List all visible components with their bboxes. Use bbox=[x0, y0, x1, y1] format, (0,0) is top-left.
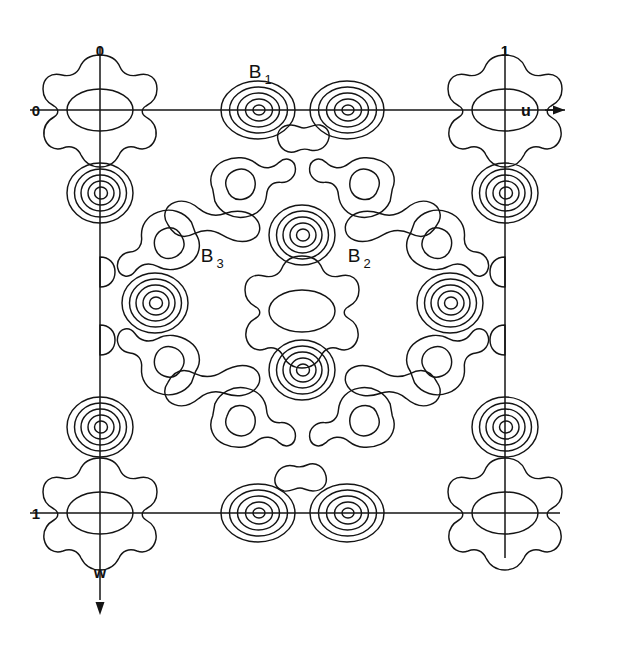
axis-ring-peaks-group bbox=[221, 81, 384, 542]
cross-peak-center bbox=[245, 256, 359, 368]
peak-label-b3-base: B bbox=[201, 245, 214, 266]
axis-labels-group: 0 1 0 1 u w bbox=[32, 42, 531, 581]
peak-label-b3-subscript: 3 bbox=[216, 256, 223, 271]
amoeba-blob-bottom-left bbox=[207, 383, 302, 457]
kidney-blobs-group bbox=[275, 125, 329, 491]
amoeba-blob-top-left bbox=[207, 148, 302, 222]
amoeba-blob-top-right bbox=[303, 148, 398, 222]
peak-label-b2: B 2 bbox=[348, 245, 371, 271]
ring-peak-mid-right bbox=[417, 273, 483, 333]
w-axis-arrowhead bbox=[96, 602, 105, 615]
w-axis-label: w bbox=[93, 564, 107, 581]
edge-nub-right-upper bbox=[490, 257, 505, 287]
bean-blob-bottom-left bbox=[162, 348, 263, 423]
u-axis-label: u bbox=[521, 102, 531, 119]
tick-label-w-origin: 0 bbox=[32, 102, 40, 119]
amoeba-blob-left-lower bbox=[104, 317, 205, 403]
amoeba-blob-right-lower bbox=[401, 317, 502, 403]
amoeba-blob-bottom-right bbox=[303, 383, 398, 457]
patterson-figure: 0 1 0 1 u w bbox=[0, 0, 634, 646]
peak-label-b1-subscript: 1 bbox=[264, 72, 271, 87]
ring-peak-mid-left bbox=[122, 273, 188, 333]
amoeba-blob-left-upper bbox=[104, 202, 205, 288]
bean-blob-bottom-right bbox=[343, 348, 444, 423]
peak-label-b1: B 1 bbox=[249, 61, 272, 87]
tick-label-u-origin: 0 bbox=[96, 42, 104, 59]
patterson-contour-plot: 0 1 0 1 u w bbox=[0, 0, 634, 646]
ring-peak-center-lower bbox=[269, 340, 335, 400]
tick-label-u-end: 1 bbox=[501, 42, 509, 59]
kidney-blob-bottom bbox=[275, 464, 327, 491]
edge-nub-right-lower bbox=[490, 325, 505, 355]
edge-nub-left-lower bbox=[100, 325, 115, 355]
edge-nub-left-upper bbox=[100, 257, 115, 287]
peak-label-b2-base: B bbox=[348, 245, 361, 266]
tick-label-w-end: 1 bbox=[32, 505, 40, 522]
peak-label-b1-base: B bbox=[249, 61, 262, 82]
amoeba-blob-right-upper bbox=[401, 202, 502, 288]
peak-label-b3: B 3 bbox=[201, 245, 224, 271]
peak-label-b2-subscript: 2 bbox=[363, 256, 370, 271]
amoeba-blobs-group bbox=[104, 148, 501, 457]
cross-peaks-group bbox=[43, 55, 562, 570]
